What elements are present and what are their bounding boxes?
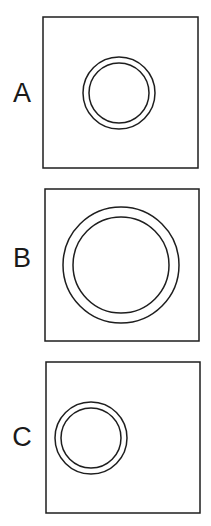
- panel-a-outer-ring: [83, 57, 155, 129]
- panel-b-frame: [45, 189, 199, 341]
- panel-b: [45, 189, 199, 341]
- panel-b-outer-ring: [63, 207, 179, 323]
- panel-b-inner-ring: [73, 217, 169, 313]
- panel-c-frame: [46, 362, 200, 513]
- panel-c: [46, 362, 200, 513]
- panel-c-inner-ring: [61, 408, 121, 468]
- panel-a-inner-ring: [89, 63, 149, 123]
- panel-a-frame: [43, 17, 198, 168]
- panel-a: [43, 17, 198, 168]
- panel-c-outer-ring: [55, 402, 127, 474]
- diagram-canvas: [0, 0, 211, 526]
